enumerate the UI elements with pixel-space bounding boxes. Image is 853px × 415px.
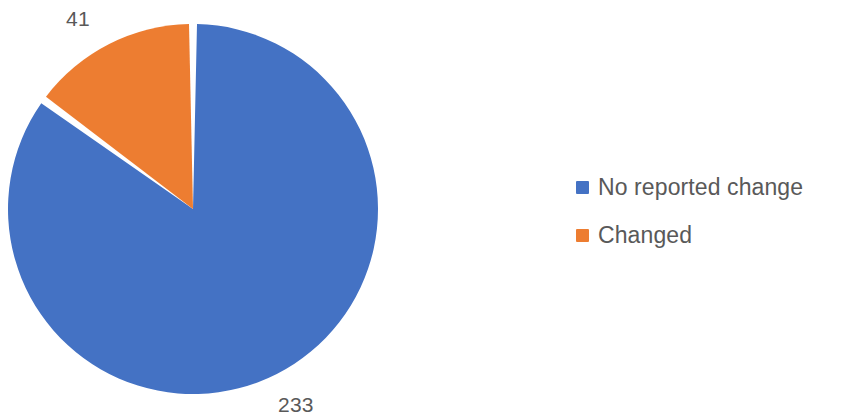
legend-item-changed[interactable]: Changed — [576, 218, 853, 252]
legend-item-no-reported-change[interactable]: No reported change — [576, 170, 853, 204]
chart-legend: No reported change Changed — [576, 170, 853, 266]
data-label-no-reported-change: 233 — [278, 394, 314, 415]
pie-svg — [0, 0, 560, 415]
pie-slice-group — [8, 24, 378, 394]
pie-chart: 233 41 No reported change Changed — [0, 0, 853, 415]
legend-swatch-icon-no-reported-change — [576, 181, 589, 194]
legend-swatch-icon-changed — [576, 229, 589, 242]
pie-plot-area: 233 41 — [0, 0, 560, 415]
legend-label-changed: Changed — [598, 224, 692, 247]
data-label-changed: 41 — [66, 8, 90, 29]
legend-label-no-reported-change: No reported change — [598, 176, 803, 199]
